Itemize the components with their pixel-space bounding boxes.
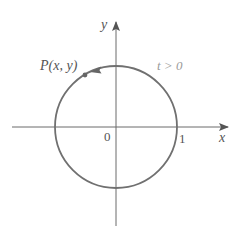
point-p-marker — [83, 73, 88, 78]
direction-label: t > 0 — [157, 58, 183, 73]
direction-arrow-icon — [90, 67, 102, 74]
origin-label: 0 — [104, 129, 111, 144]
point-p-label: P(x, y) — [39, 58, 78, 74]
x-axis-label: x — [218, 130, 226, 145]
y-axis-label: y — [99, 17, 108, 32]
x-tick-label-1: 1 — [179, 131, 186, 146]
unit-circle-diagram: y x 0 1 P(x, y) t > 0 — [0, 0, 240, 231]
